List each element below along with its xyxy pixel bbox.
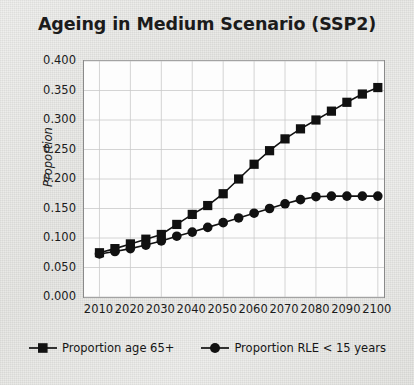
- y-tick-label: 0.350: [30, 83, 76, 97]
- data-point-square: [358, 89, 367, 98]
- data-point-circle: [311, 192, 321, 202]
- x-tick-label: 2100: [362, 302, 391, 316]
- y-tick-label: 0.050: [30, 260, 76, 274]
- data-point-circle: [172, 231, 182, 241]
- data-point-circle: [280, 199, 290, 209]
- plot-canvas: [84, 61, 384, 297]
- data-point-circle: [203, 223, 213, 233]
- data-point-circle: [157, 236, 167, 246]
- data-point-circle: [296, 195, 306, 205]
- plot-area: [83, 60, 385, 298]
- data-point-circle: [373, 191, 383, 201]
- data-point-circle: [187, 227, 197, 237]
- chart-figure: Ageing in Medium Scenario (SSP2) Proport…: [0, 0, 414, 385]
- x-tick-label: 2090: [331, 302, 360, 316]
- x-tick-label: 2030: [146, 302, 175, 316]
- data-point-square: [172, 220, 181, 229]
- data-point-circle: [141, 240, 151, 250]
- legend-item[interactable]: Proportion age 65+: [28, 341, 174, 355]
- data-point-square: [296, 124, 305, 133]
- data-point-circle: [342, 191, 352, 201]
- y-tick-label: 0.250: [30, 142, 76, 156]
- y-axis-tick-labels: 0.0000.0500.1000.1500.2000.2500.3000.350…: [28, 0, 76, 385]
- legend-item[interactable]: Proportion RLE < 15 years: [200, 341, 386, 355]
- data-point-square: [342, 98, 351, 107]
- data-point-circle: [110, 247, 120, 257]
- data-point-circle: [95, 249, 105, 259]
- data-point-circle: [126, 244, 136, 254]
- legend-marker-square-icon: [28, 341, 58, 355]
- data-point-square: [327, 107, 336, 116]
- data-point-circle: [249, 208, 259, 218]
- x-tick-label: 2040: [177, 302, 206, 316]
- data-point-square: [250, 160, 259, 169]
- data-point-square: [373, 83, 382, 92]
- series-1: [95, 83, 383, 257]
- x-tick-label: 2070: [269, 302, 298, 316]
- x-tick-label: 2050: [208, 302, 237, 316]
- y-tick-label: 0.300: [30, 112, 76, 126]
- data-point-square: [219, 189, 228, 198]
- legend-marker-circle-icon: [200, 341, 230, 355]
- data-point-circle: [218, 218, 228, 228]
- y-tick-label: 0.100: [30, 230, 76, 244]
- legend-label: Proportion RLE < 15 years: [234, 341, 386, 355]
- data-point-square: [311, 115, 320, 124]
- data-point-square: [280, 134, 289, 143]
- x-tick-label: 2080: [300, 302, 329, 316]
- data-point-square: [203, 201, 212, 210]
- x-tick-label: 2060: [238, 302, 267, 316]
- y-tick-label: 0.000: [30, 289, 76, 303]
- x-tick-label: 2010: [84, 302, 113, 316]
- data-point-circle: [234, 213, 244, 223]
- data-point-circle: [265, 204, 275, 214]
- y-tick-label: 0.150: [30, 201, 76, 215]
- data-point-square: [188, 210, 197, 219]
- gridlines: [84, 61, 384, 297]
- data-series-layer: [95, 83, 383, 259]
- data-point-circle: [327, 191, 337, 201]
- series-line: [99, 88, 377, 253]
- data-point-circle: [358, 191, 368, 201]
- y-tick-label: 0.200: [30, 171, 76, 185]
- legend-label: Proportion age 65+: [62, 341, 174, 355]
- y-tick-label: 0.400: [30, 53, 76, 67]
- data-point-square: [234, 174, 243, 183]
- chart-legend: Proportion age 65+Proportion RLE < 15 ye…: [0, 341, 414, 355]
- series-2: [95, 191, 383, 258]
- x-tick-label: 2020: [115, 302, 144, 316]
- data-point-square: [265, 146, 274, 155]
